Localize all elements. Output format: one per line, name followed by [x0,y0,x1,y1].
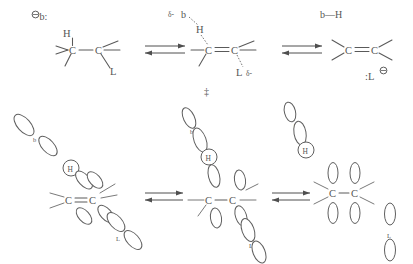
top-equilibrium-arrow-2 [282,43,322,55]
orbital-leaving-group-label: L [116,235,120,242]
product-orbital-carbon-right: C [351,188,358,199]
ts-base-label: b [181,9,186,20]
ts-orbital-hydrogen-label: H [206,154,212,163]
product-leaving-group: :L [365,71,374,82]
reactant-structure: H C C L [56,28,120,78]
product-leaving-group-orbital-upper [385,203,396,225]
ts-base-orbital-lobe-outer [179,106,198,131]
bottom-equilibrium-arrow-2 [272,190,310,202]
base-anion-group: b: [32,11,47,22]
orbital-diagram-transition-state: b H C C L [179,106,269,264]
product-carbon-left-p-upper [328,163,338,184]
product-leaving-group-orbital-lower [385,239,396,261]
reactant-leaving-group: L [110,66,116,77]
orbital-hydrogen-label: H [68,165,74,174]
ts-orbital-carbon-left: C [205,195,212,206]
base-orbital-lobe-inner [36,133,61,159]
orbital-base-label: b [33,136,36,143]
reactant-carbon-left: C [69,45,76,56]
base-orbital-lobe-outer [10,111,37,139]
reactant-hydrogen-label: H [63,28,71,39]
product-orbital-hydrogen-label: H [303,147,309,156]
product-carbon-right-p-lower [350,203,360,224]
product-orbital-carbon-left: C [329,188,336,199]
transition-state-structure: δ- b H C C L δ- [168,9,256,78]
leaving-group-orbital-outer [121,227,145,252]
product-structure: b—H C C :L [320,9,392,82]
orbital-diagram-products: b H C C L [282,101,395,261]
ts-leaving-group: L [236,67,242,78]
top-equilibrium-arrow-1 [145,43,185,55]
ts-carbon-right-upper-lobe [233,169,247,190]
ts-delta-leaving: δ- [246,69,253,78]
double-dagger-marker: ‡ [204,86,209,97]
product-carbon-left-p-lower [328,203,338,224]
ts-carbon-right: C [231,45,238,56]
carbon-left-lower-lobe [73,205,95,227]
product-carbon-left: C [345,45,352,56]
ts-carbon-orbital-toward-hydrogen [206,164,222,189]
orbital-carbon-left: C [65,195,72,206]
ts-hydrogen-label: H [196,24,204,35]
reaction-scheme-figure: b: H C C L δ- b H C C L δ- [0,0,413,264]
product-carbon-right: C [371,45,378,56]
orbital-diagram-reactants: b H C C L [10,111,145,253]
product-base-orbital-lobe-outer [282,101,298,123]
conjugate-acid-label: b—H [320,9,342,20]
ts-delta-base: δ- [168,10,175,19]
bottom-equilibrium-arrow-1 [145,190,183,202]
base-label: b: [40,11,48,22]
dagger-symbol: ‡ [204,86,209,97]
ts-orbital-carbon-right: C [229,195,236,206]
orbital-carbon-right: C [89,195,96,206]
ts-carbon-left-lower-lobe [209,207,223,228]
product-orbital-leaving-group-label: L [387,232,391,239]
product-carbon-right-p-upper [350,163,360,184]
